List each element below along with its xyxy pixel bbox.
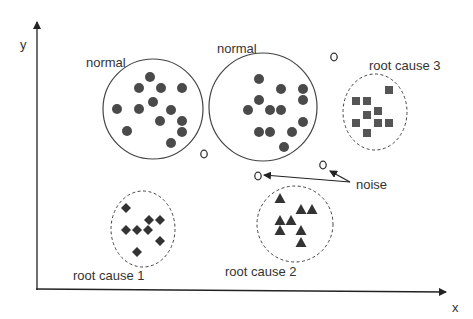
diamond-point <box>143 225 153 235</box>
circle-point <box>177 116 187 126</box>
diamond-point <box>132 247 142 257</box>
cluster-root-cause-3 <box>343 74 407 150</box>
circle-point <box>122 126 132 136</box>
circle-point <box>298 84 308 94</box>
cluster-boundary <box>111 191 175 267</box>
circle-point <box>156 83 166 93</box>
circle-point <box>254 74 264 84</box>
noise-point <box>201 150 207 158</box>
cluster-normal <box>209 53 317 161</box>
noise-points <box>201 53 350 182</box>
cluster-root-cause-2 <box>257 186 333 262</box>
y-axis-label: y <box>20 38 27 51</box>
cluster-boundary <box>209 53 317 161</box>
x-axis-label: x <box>452 301 459 314</box>
square-point <box>352 97 360 105</box>
square-point <box>363 97 371 105</box>
square-point <box>385 86 393 94</box>
cluster-label-root-cause-2: root cause 2 <box>225 265 297 278</box>
square-point <box>374 119 382 127</box>
circle-point <box>166 105 176 115</box>
noise-label: noise <box>356 178 387 191</box>
circle-point <box>148 97 158 107</box>
circle-point <box>265 105 275 115</box>
circle-point <box>254 95 264 105</box>
triangle-point <box>296 237 307 247</box>
diamond-point <box>121 203 131 213</box>
circle-point <box>276 84 286 94</box>
diamond-point <box>155 215 165 225</box>
circle-point <box>276 105 286 115</box>
circle-point <box>134 83 144 93</box>
triangle-point <box>296 204 307 214</box>
circle-point <box>287 127 297 137</box>
circle-point <box>112 104 122 114</box>
diamond-point <box>132 225 142 235</box>
square-point <box>352 119 360 127</box>
cluster-normal <box>103 59 203 159</box>
diamond-point <box>121 225 131 235</box>
square-point <box>374 107 382 115</box>
circle-point <box>155 116 165 126</box>
noise-point <box>320 161 326 169</box>
clusters <box>103 53 407 267</box>
circle-point <box>254 127 264 137</box>
triangle-point <box>275 215 286 225</box>
anomaly-clustering-diagram: y x normal normal root cause 3 root caus… <box>0 0 473 319</box>
diamond-point <box>144 215 154 225</box>
triangle-point <box>275 193 286 203</box>
circle-point <box>265 127 275 137</box>
triangle-point <box>286 215 297 225</box>
circle-point <box>298 117 308 127</box>
circle-point <box>298 95 308 105</box>
cluster-label-root-cause-1: root cause 1 <box>73 269 145 282</box>
noise-point <box>255 172 261 180</box>
circle-point <box>166 138 176 148</box>
triangle-point <box>307 204 318 214</box>
circle-point <box>134 104 144 114</box>
circle-point <box>177 127 187 137</box>
circle-point <box>145 72 155 82</box>
noise-point <box>331 53 337 61</box>
diamond-point <box>155 236 165 246</box>
noise-arrow <box>264 175 350 182</box>
circle-point <box>279 142 289 152</box>
square-point <box>363 129 371 137</box>
cluster-root-cause-1 <box>111 191 175 267</box>
cluster-label-root-cause-3: root cause 3 <box>369 59 441 72</box>
triangle-point <box>296 225 307 235</box>
cluster-label-normal-2: normal <box>217 42 257 55</box>
circle-point <box>243 105 253 115</box>
square-point <box>385 119 393 127</box>
cluster-label-normal-1: normal <box>86 56 126 69</box>
triangle-point <box>275 225 286 235</box>
circle-point <box>177 83 187 93</box>
square-point <box>363 111 371 119</box>
x-axis <box>36 289 446 292</box>
